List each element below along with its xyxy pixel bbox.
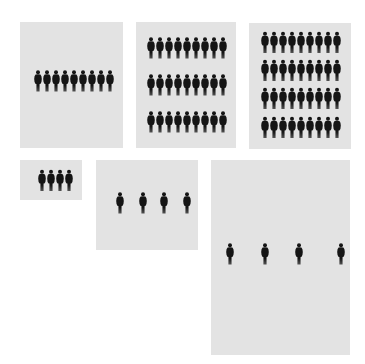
person-silhouette-icon (226, 243, 234, 265)
person-silhouette-icon (333, 116, 341, 139)
person-silhouette-icon (192, 37, 200, 59)
person-silhouette-icon (315, 31, 323, 54)
person-silhouette-icon (201, 111, 209, 133)
person-silhouette-icon (288, 87, 296, 110)
person-silhouette-icon (288, 31, 296, 54)
person-silhouette-icon (52, 70, 60, 92)
person-silhouette-icon (297, 87, 305, 110)
person-silhouette-icon (270, 59, 278, 82)
person-silhouette-icon (34, 70, 42, 92)
person-silhouette-icon (192, 74, 200, 96)
person-silhouette-icon (337, 243, 345, 265)
panel-1 (20, 22, 123, 148)
person-silhouette-icon (333, 87, 341, 110)
person-silhouette-icon (165, 74, 173, 96)
person-silhouette-icon (261, 116, 269, 139)
person-silhouette-icon (156, 74, 164, 96)
person-silhouette-icon (270, 116, 278, 139)
person-silhouette-icon (279, 59, 287, 82)
person-silhouette-icon (201, 74, 209, 96)
panel-4 (20, 160, 82, 200)
person-silhouette-icon (79, 70, 87, 92)
person-silhouette-icon (279, 116, 287, 139)
person-silhouette-icon (116, 192, 124, 214)
person-silhouette-icon (270, 87, 278, 110)
panel-6 (211, 160, 350, 355)
person-silhouette-icon (47, 169, 55, 192)
person-silhouette-icon (139, 192, 147, 214)
person-silhouette-icon (306, 116, 314, 139)
person-silhouette-icon (288, 116, 296, 139)
person-silhouette-icon (106, 70, 114, 92)
person-silhouette-icon (315, 59, 323, 82)
person-silhouette-icon (201, 37, 209, 59)
person-silhouette-icon (261, 87, 269, 110)
person-silhouette-icon (219, 74, 227, 96)
person-silhouette-icon (297, 116, 305, 139)
person-silhouette-icon (147, 37, 155, 59)
person-silhouette-icon (297, 59, 305, 82)
person-silhouette-icon (210, 37, 218, 59)
person-silhouette-icon (219, 111, 227, 133)
person-silhouette-icon (261, 243, 269, 265)
person-silhouette-icon (210, 74, 218, 96)
person-silhouette-icon (279, 31, 287, 54)
person-silhouette-icon (324, 87, 332, 110)
person-silhouette-icon (279, 87, 287, 110)
person-silhouette-icon (306, 59, 314, 82)
panel-5 (96, 160, 198, 250)
person-silhouette-icon (306, 87, 314, 110)
person-silhouette-icon (324, 59, 332, 82)
person-silhouette-icon (306, 31, 314, 54)
person-silhouette-icon (65, 169, 73, 192)
person-silhouette-icon (183, 37, 191, 59)
person-silhouette-icon (160, 192, 168, 214)
person-silhouette-icon (261, 59, 269, 82)
person-silhouette-icon (315, 87, 323, 110)
person-silhouette-icon (156, 111, 164, 133)
person-silhouette-icon (210, 111, 218, 133)
person-silhouette-icon (147, 111, 155, 133)
person-silhouette-icon (183, 192, 191, 214)
person-silhouette-icon (156, 37, 164, 59)
person-silhouette-icon (333, 59, 341, 82)
person-silhouette-icon (219, 37, 227, 59)
person-silhouette-icon (38, 169, 46, 192)
person-silhouette-icon (324, 31, 332, 54)
person-silhouette-icon (288, 59, 296, 82)
person-silhouette-icon (56, 169, 64, 192)
person-silhouette-icon (192, 111, 200, 133)
person-silhouette-icon (324, 116, 332, 139)
person-silhouette-icon (88, 70, 96, 92)
person-silhouette-icon (147, 74, 155, 96)
person-silhouette-icon (70, 70, 78, 92)
person-silhouette-icon (97, 70, 105, 92)
person-silhouette-icon (183, 111, 191, 133)
person-silhouette-icon (270, 31, 278, 54)
person-silhouette-icon (165, 37, 173, 59)
person-silhouette-icon (165, 111, 173, 133)
person-silhouette-icon (43, 70, 51, 92)
person-silhouette-icon (315, 116, 323, 139)
person-silhouette-icon (333, 31, 341, 54)
person-silhouette-icon (183, 74, 191, 96)
panel-3 (249, 23, 351, 149)
person-silhouette-icon (295, 243, 303, 265)
person-silhouette-icon (297, 31, 305, 54)
person-silhouette-icon (174, 111, 182, 133)
person-silhouette-icon (261, 31, 269, 54)
panel-2 (136, 22, 236, 148)
person-silhouette-icon (61, 70, 69, 92)
person-silhouette-icon (174, 74, 182, 96)
person-silhouette-icon (174, 37, 182, 59)
